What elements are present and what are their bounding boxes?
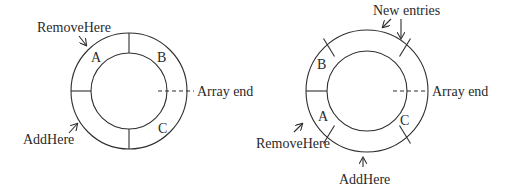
right-array-end-label: Array end	[432, 84, 488, 99]
right-divider-bottom-right	[400, 126, 411, 144]
right-new-entries-arrow-left-icon	[383, 19, 391, 27]
right-add-here-label: AddHere	[339, 172, 390, 187]
right-remove-here-label: RemoveHere	[256, 136, 330, 151]
circular-buffer-diagrams: Array end A B C RemoveHere AddHere Array…	[0, 0, 507, 191]
left-inner-ring	[91, 53, 167, 129]
right-remove-here-arrow-icon	[294, 124, 302, 132]
left-slot-c: C	[158, 121, 167, 136]
left-add-here-label: AddHere	[23, 132, 74, 147]
right-slot-a: A	[318, 109, 329, 124]
left-circular-buffer: Array end A B C RemoveHere AddHere	[23, 20, 253, 149]
right-circular-buffer: Array end B A C New entries RemoveHere A…	[256, 3, 488, 187]
right-new-entries-label: New entries	[373, 3, 440, 18]
right-slot-c: C	[400, 113, 409, 128]
left-slot-b: B	[157, 50, 166, 65]
left-array-end-label: Array end	[197, 84, 253, 99]
right-slot-b: B	[317, 57, 326, 72]
left-remove-here-arrow-icon	[79, 36, 86, 45]
right-divider-top-left	[324, 39, 335, 57]
left-slot-a: A	[91, 50, 102, 65]
right-divider-top-right	[400, 39, 411, 57]
left-remove-here-label: RemoveHere	[37, 20, 111, 35]
